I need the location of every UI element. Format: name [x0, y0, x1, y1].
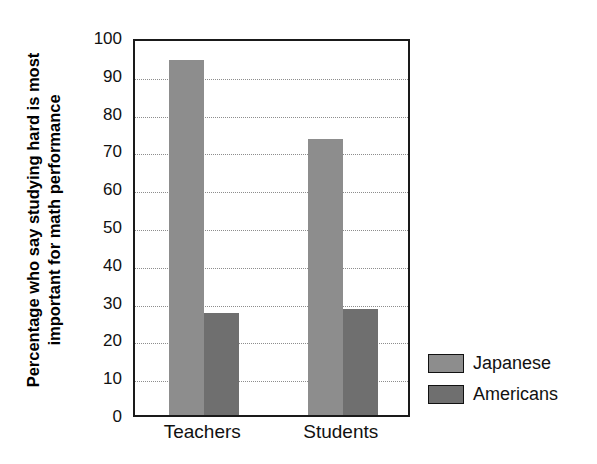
y-axis-tick-label: 10 [103, 369, 122, 389]
y-axis-title-line-2: important for math performance [44, 53, 65, 388]
y-axis-title-line-1: Percentage who say studying hard is most [23, 53, 44, 388]
y-axis-tick-label: 50 [103, 218, 122, 238]
y-axis-tick-label: 20 [103, 331, 122, 351]
legend-label-japanese: Japanese [473, 353, 551, 374]
x-axis-label-teachers: Teachers [164, 421, 241, 443]
y-axis-title: Percentage who say studying hard is most… [8, 0, 80, 440]
legend-label-americans: Americans [473, 384, 558, 405]
y-axis-tick-label: 80 [103, 105, 122, 125]
y-axis-tick-label: 100 [94, 29, 122, 49]
y-axis-tick-label: 0 [113, 407, 122, 427]
legend-item-japanese[interactable]: Japanese [428, 352, 558, 374]
bar-students-americans [343, 309, 378, 415]
bar-chart: Percentage who say studying hard is most… [0, 0, 597, 464]
y-axis-tick-labels: 0102030405060708090100 [78, 39, 128, 417]
y-axis-tick-label: 30 [103, 294, 122, 314]
y-axis-tick-label: 60 [103, 180, 122, 200]
legend-swatch-americans [428, 385, 464, 404]
y-axis-tick-label: 70 [103, 142, 122, 162]
bar-students-japanese [308, 139, 343, 415]
bar-teachers-japanese [169, 60, 204, 415]
x-axis-label-students: Students [303, 421, 378, 443]
bar-teachers-americans [204, 313, 239, 415]
x-axis-category-labels: TeachersStudents [133, 421, 410, 455]
chart-legend: JapaneseAmericans [428, 352, 558, 414]
legend-swatch-japanese [428, 354, 464, 373]
legend-item-americans[interactable]: Americans [428, 383, 558, 405]
plot-area [133, 39, 410, 417]
y-axis-tick-label: 90 [103, 67, 122, 87]
y-axis-tick-label: 40 [103, 256, 122, 276]
